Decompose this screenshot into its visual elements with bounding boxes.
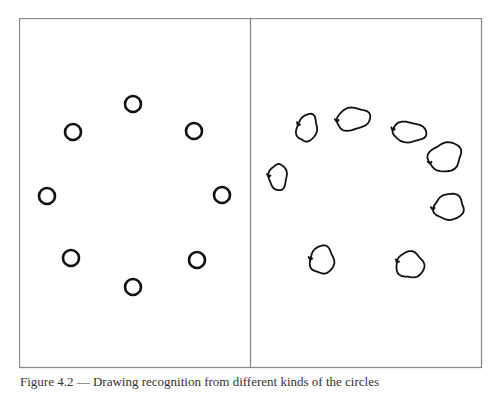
ideal-circle-7 — [189, 252, 205, 268]
left-panel-ideal-circles — [39, 96, 230, 295]
hand-drawn-circle-8 — [393, 249, 427, 280]
ideal-circle-4 — [39, 188, 55, 204]
figure — [19, 18, 481, 368]
hand-drawn-circle-1 — [293, 111, 321, 144]
ideal-circle-8 — [125, 279, 141, 295]
hand-drawn-circle-4 — [423, 137, 467, 178]
ideal-circle-3 — [186, 123, 202, 139]
hand-drawn-circle-6 — [429, 192, 465, 223]
ideal-circle-1 — [125, 96, 141, 112]
right-panel-hand-drawn-circles — [267, 104, 467, 279]
hand-drawn-circle-7 — [309, 245, 335, 273]
figure-caption: Figure 4.2 — Drawing recognition from di… — [20, 374, 379, 390]
figure-canvas — [19, 18, 499, 393]
hand-drawn-circle-2 — [333, 104, 372, 132]
hand-drawn-circle-5 — [267, 164, 287, 190]
ideal-circle-6 — [63, 250, 79, 266]
ideal-circle-2 — [65, 124, 81, 140]
hand-drawn-circle-3 — [390, 120, 427, 144]
ideal-circle-5 — [214, 187, 230, 203]
